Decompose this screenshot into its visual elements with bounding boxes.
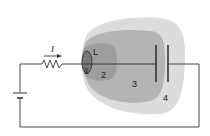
region-1-label: 1 <box>84 66 89 76</box>
region-2-label: 2 <box>101 70 106 80</box>
region-3-label: 3 <box>132 79 137 89</box>
cathode-label: L <box>93 47 98 57</box>
current-arrow-head-icon <box>57 54 62 58</box>
discharge-diagram: I L 1 2 3 4 <box>0 0 210 136</box>
region-4-label: 4 <box>163 93 168 103</box>
resistor-icon <box>42 60 62 68</box>
current-label: I <box>50 44 55 54</box>
